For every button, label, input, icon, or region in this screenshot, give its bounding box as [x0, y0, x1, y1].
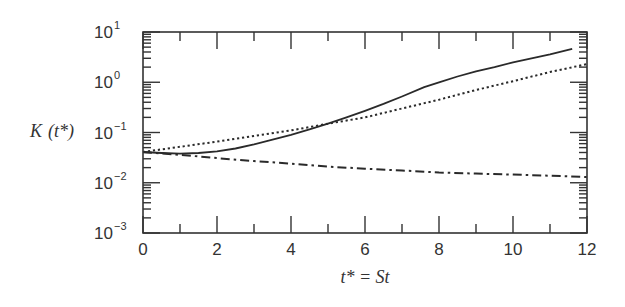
y-tick-exponent: 0: [114, 69, 120, 81]
x-tick-label: 4: [286, 240, 295, 259]
x-tick-label: 8: [434, 240, 443, 259]
series-dotted: [143, 64, 587, 152]
chart: 024681012 10110010−110−210−3 K(t*) t* = …: [0, 0, 625, 307]
x-axis-label: t* = St: [340, 267, 390, 287]
series-dash-dot: [143, 152, 587, 177]
axis-ticks: [143, 32, 587, 233]
x-tick-labels: 024681012: [138, 240, 596, 259]
y-axis-label: K(t*): [29, 121, 74, 142]
y-tick-exponent: −2: [114, 170, 127, 182]
y-tick-label: 10: [94, 73, 113, 92]
y-tick-label: 10: [94, 224, 113, 243]
x-tick-label: 10: [504, 240, 523, 259]
x-tick-label: 0: [138, 240, 147, 259]
plot-frame: [143, 32, 587, 233]
y-tick-label: 10: [94, 174, 113, 193]
y-tick-exponent: −3: [114, 220, 127, 232]
series-solid: [143, 49, 572, 154]
y-tick-exponent: 1: [114, 19, 120, 31]
x-tick-label: 2: [212, 240, 221, 259]
x-tick-label: 6: [360, 240, 369, 259]
data-series: [143, 49, 587, 177]
y-tick-exponent: −1: [114, 120, 127, 132]
y-tick-label: 10: [94, 124, 113, 143]
y-tick-label: 10: [94, 23, 113, 42]
y-tick-labels: 10110010−110−210−3: [94, 19, 126, 243]
x-tick-label: 12: [578, 240, 597, 259]
